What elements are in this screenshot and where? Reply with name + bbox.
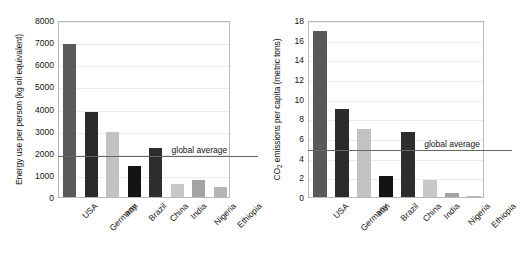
chart-panel-co2: CO2 emissions per capita (metric tons) 0… [260, 0, 521, 259]
y-tick-label: 16 [295, 36, 304, 46]
bar [445, 193, 459, 197]
x-tick-label: China [420, 201, 443, 224]
bar [214, 187, 227, 197]
bar [192, 180, 205, 197]
bar [357, 129, 371, 197]
x-tick-label: Brazil [398, 201, 420, 223]
y-tick-label: 1000 [35, 171, 54, 181]
x-tick-label: USA [80, 201, 99, 220]
global-average-line [308, 150, 512, 151]
y-tick-label: 2000 [35, 149, 54, 159]
bar [106, 132, 119, 197]
x-tick-label: China [168, 201, 191, 224]
y-tick-label: 3000 [35, 127, 54, 137]
gridline [59, 88, 229, 89]
y-tick-label: 4000 [35, 105, 54, 115]
gridline [309, 42, 483, 43]
bar [85, 112, 98, 197]
x-tick-label: Brazil [146, 201, 168, 223]
y-tick-label: 8000 [35, 16, 54, 26]
gridline [59, 66, 229, 67]
y-tick-label: 8 [299, 114, 304, 124]
figure: Energy use per person (kg oil equivalent… [0, 0, 521, 259]
y-tick-label: 18 [295, 16, 304, 26]
gridline [59, 44, 229, 45]
y-tick-label: 0 [299, 193, 304, 203]
bar [467, 196, 481, 197]
y-tick-label: 5000 [35, 82, 54, 92]
gridline [309, 22, 483, 23]
plot-area-co2 [308, 21, 484, 198]
x-tick-label: India [188, 201, 208, 221]
y-tick-label: 6000 [35, 60, 54, 70]
gridline [309, 101, 483, 102]
y-axis-ticks-right: 024681012141618 [270, 21, 304, 198]
x-tick-label: Nigeria [465, 201, 491, 227]
bar [423, 180, 437, 197]
x-tick-label: USA [331, 201, 350, 220]
x-tick-label: Nigeria [212, 201, 238, 227]
x-tick-label: India [441, 201, 461, 221]
y-tick-label: 14 [295, 55, 304, 65]
global-average-label: global average [172, 145, 228, 155]
y-axis-ticks-left: 010002000300040005000600070008000 [20, 21, 54, 198]
gridline [59, 22, 229, 23]
bar [335, 109, 349, 197]
gridline [309, 61, 483, 62]
bar [401, 132, 415, 197]
bar [313, 31, 327, 197]
y-tick-label: 2 [299, 173, 304, 183]
y-tick-label: 7000 [35, 38, 54, 48]
y-tick-label: 6 [299, 134, 304, 144]
bar [63, 44, 76, 197]
global-average-label: global average [424, 139, 480, 149]
global-average-line [58, 156, 258, 157]
gridline [309, 81, 483, 82]
chart-panel-energy: Energy use per person (kg oil equivalent… [0, 0, 260, 259]
y-tick-label: 4 [299, 154, 304, 164]
y-tick-label: 0 [49, 193, 54, 203]
y-tick-label: 10 [295, 95, 304, 105]
bar [171, 184, 184, 197]
y-tick-label: 12 [295, 75, 304, 85]
plot-area-energy [58, 21, 230, 198]
bar [379, 176, 393, 197]
bar [128, 166, 141, 197]
x-tick-label: Ethiopia [489, 201, 518, 230]
